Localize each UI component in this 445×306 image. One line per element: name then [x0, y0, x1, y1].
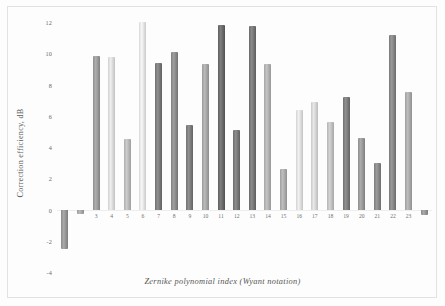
y-axis-tick-label: 0 — [49, 206, 52, 213]
bar — [171, 52, 178, 210]
y-axis-tick-label: 2 — [49, 175, 52, 182]
y-axis-tick-label: -4 — [46, 269, 52, 276]
x-axis-tick-label: 6 — [142, 213, 145, 219]
bar — [249, 26, 256, 210]
y-axis-tick-label: 4 — [49, 144, 52, 151]
y-axis-tick-label: 10 — [45, 50, 52, 57]
x-axis-tick-label: 13 — [250, 213, 256, 219]
x-axis-tick-label: 9 — [188, 213, 191, 219]
y-axis-title: Correction efficiency, dB — [16, 108, 25, 197]
bar — [93, 56, 100, 209]
bar — [218, 25, 225, 209]
x-axis-tick-label: 22 — [390, 213, 396, 219]
y-axis-tick-label: 8 — [49, 81, 52, 88]
x-axis-tick-label: 16 — [296, 213, 302, 219]
x-axis-tick-label: 4 — [110, 213, 113, 219]
x-axis-tick-label: 3 — [95, 213, 98, 219]
x-axis-tick-label: 5 — [126, 213, 129, 219]
bar — [77, 210, 84, 215]
bar — [374, 163, 381, 210]
bar — [233, 130, 240, 210]
x-axis-tick-label: 20 — [359, 213, 365, 219]
x-axis-tick-label: 8 — [173, 213, 176, 219]
y-axis-tick-label: 12 — [45, 19, 52, 26]
bar — [264, 64, 271, 209]
bar — [421, 210, 428, 215]
bar — [358, 138, 365, 210]
bar-series — [57, 22, 432, 272]
x-axis-tick-label: 21 — [375, 213, 381, 219]
x-axis-tick-label: 23 — [406, 213, 412, 219]
x-axis-tick-label: 17 — [312, 213, 318, 219]
bar — [61, 210, 68, 249]
x-axis-tick-label: 19 — [343, 213, 349, 219]
bar — [124, 139, 131, 209]
bar — [202, 64, 209, 209]
bar — [343, 97, 350, 210]
x-axis-tick-label: 12 — [234, 213, 240, 219]
chart-figure: Correction efficiency, dB 121086420-2-4 … — [0, 0, 445, 306]
bar — [155, 63, 162, 210]
bar — [296, 110, 303, 210]
x-axis-tick-label: 15 — [281, 213, 287, 219]
bar — [311, 102, 318, 210]
x-axis-tick-label: 11 — [218, 213, 223, 219]
y-axis-tick-label: 6 — [49, 112, 52, 119]
bar — [108, 57, 115, 209]
bar — [280, 169, 287, 210]
bar — [405, 92, 412, 209]
x-axis-tick-label: 10 — [203, 213, 209, 219]
x-axis-title: Zernike polynomial index (Wyant notation… — [0, 277, 445, 286]
y-axis-tick-label: -2 — [46, 237, 52, 244]
x-axis-tick-label: 7 — [157, 213, 160, 219]
plot-area: 121086420-2-4 34567891011121314151617181… — [57, 22, 432, 272]
x-axis-tick-label: 14 — [265, 213, 271, 219]
bar — [186, 125, 193, 209]
bar — [139, 22, 146, 210]
bar — [389, 35, 396, 210]
bar — [327, 122, 334, 210]
x-axis-tick-label: 18 — [328, 213, 334, 219]
